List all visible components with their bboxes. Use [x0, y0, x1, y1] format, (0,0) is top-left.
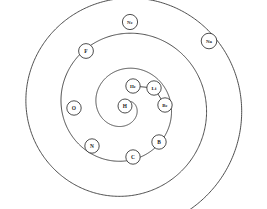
element-symbol-o: O	[72, 105, 76, 111]
element-symbol-b: B	[157, 139, 161, 145]
connector-he-li	[140, 87, 147, 88]
element-symbol-c: C	[131, 154, 135, 160]
element-symbol-ne: Ne	[127, 20, 134, 25]
spiral-diagram-canvas: HHeLiBeBCNOFNeNa	[0, 0, 267, 209]
element-node-c[interactable]: C	[126, 150, 140, 164]
spiral-curve-group	[26, 0, 242, 209]
element-node-n[interactable]: N	[85, 139, 99, 153]
element-symbol-h: H	[123, 103, 128, 109]
element-node-f[interactable]: F	[79, 44, 94, 59]
element-symbol-he: He	[130, 84, 137, 89]
element-node-b[interactable]: B	[152, 135, 166, 149]
element-symbol-n: N	[90, 143, 94, 149]
connector-li-be	[158, 94, 161, 99]
element-symbol-be: Be	[162, 103, 168, 108]
element-node-h[interactable]: H	[118, 99, 132, 113]
element-node-ne[interactable]: Ne	[122, 14, 137, 29]
archimedean-spiral-path	[26, 0, 242, 209]
element-node-he[interactable]: He	[126, 79, 140, 93]
element-node-layer: HHeLiBeBCNOFNeNa	[67, 14, 217, 164]
spiral-periodic-table-diagram: HHeLiBeBCNOFNeNa	[0, 0, 267, 209]
element-node-li[interactable]: Li	[147, 81, 161, 95]
element-symbol-li: Li	[152, 86, 157, 91]
element-symbol-na: Na	[206, 39, 213, 44]
element-node-o[interactable]: O	[67, 101, 81, 115]
element-symbol-f: F	[84, 48, 88, 54]
element-node-na[interactable]: Na	[201, 33, 217, 49]
element-node-be[interactable]: Be	[158, 98, 172, 112]
